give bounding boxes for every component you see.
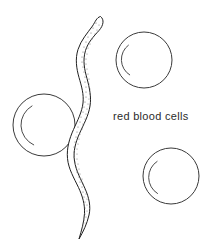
red-blood-cells-label: red blood cells xyxy=(113,110,188,123)
cell-outline-circle xyxy=(143,148,199,204)
cell-outline-circle xyxy=(13,94,75,156)
red-blood-cell-left xyxy=(13,94,75,156)
cell-outline-circle xyxy=(116,32,172,88)
diagram-canvas: red blood cells xyxy=(0,0,214,250)
red-blood-cell-bottom-right xyxy=(143,148,199,204)
red-blood-cell-top-right xyxy=(116,32,172,88)
diagram-illustration xyxy=(0,0,214,250)
